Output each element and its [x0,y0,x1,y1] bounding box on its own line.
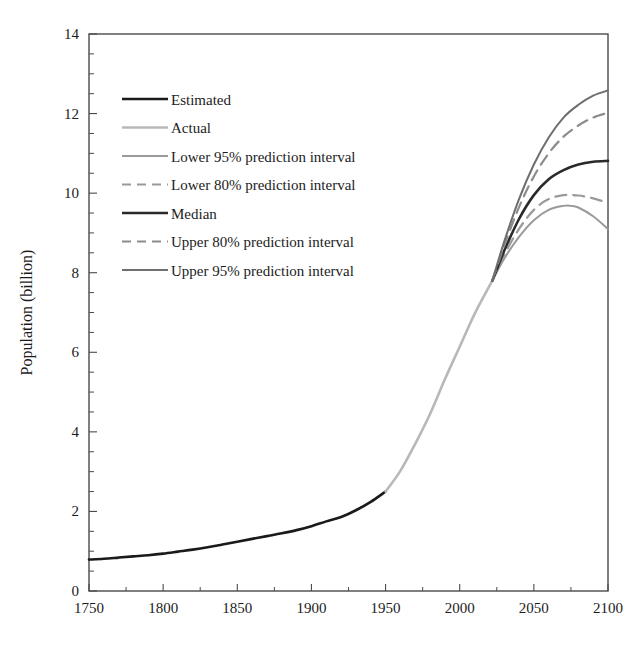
y-axis-tick-label: 14 [64,26,80,42]
y-axis-tick-label: 12 [64,106,79,122]
x-axis-tick-label: 2050 [519,600,549,616]
series-line-median [492,161,608,281]
x-axis-tick-label: 2100 [593,600,623,616]
series-line-upper-95-prediction-interval [492,91,608,281]
x-axis-tick-label: 1800 [148,600,178,616]
y-axis-tick-label: 2 [72,503,80,519]
y-axis-tick-label: 8 [72,265,80,281]
legend-label-2: Actual [171,120,211,136]
series-line-estimated [89,492,386,560]
x-axis-tick-label: 1850 [222,600,252,616]
x-axis-tick-label: 2000 [445,600,475,616]
legend-label-5: Median [171,206,217,222]
y-axis-tick-label: 10 [64,185,79,201]
population-projection-chart: EstimatedActualLower 95% prediction inte… [0,0,642,655]
series-line-actual [386,281,493,492]
legend-label-7: Upper 95% prediction interval [171,263,354,279]
x-axis-tick-label: 1900 [296,600,326,616]
chart-legend: EstimatedActualLower 95% prediction inte… [122,92,356,279]
legend-label-6: Upper 80% prediction interval [171,234,354,250]
legend-label-3: Lower 95% prediction interval [171,149,356,165]
y-axis-tick-label: 0 [72,583,80,599]
legend-label-1: Estimated [171,92,231,108]
y-axis-tick-label: 6 [72,344,80,360]
x-axis-tick-label: 1950 [371,600,401,616]
axis-layer [89,34,608,591]
plot-frame [89,34,608,591]
y-axis-title: Population (billion) [18,250,36,376]
chart-canvas: EstimatedActualLower 95% prediction inte… [0,0,642,655]
x-axis-tick-label: 1750 [74,600,104,616]
axis-label-layer: 1750180018501900195020002050210002468101… [18,26,623,616]
series-line-upper-80-prediction-interval [492,113,608,281]
y-axis-tick-label: 4 [72,424,80,440]
legend-label-4: Lower 80% prediction interval [171,177,356,193]
